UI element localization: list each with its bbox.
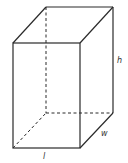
top-left-edge	[13, 7, 46, 43]
top-right-edge	[80, 7, 113, 43]
length-label: l	[43, 152, 46, 161]
width-label: w	[101, 129, 108, 138]
hidden-bottom-left-edge	[13, 113, 46, 148]
bottom-right-edge	[80, 113, 113, 148]
height-label: h	[117, 56, 122, 65]
prism-diagram: h w l	[0, 0, 128, 163]
